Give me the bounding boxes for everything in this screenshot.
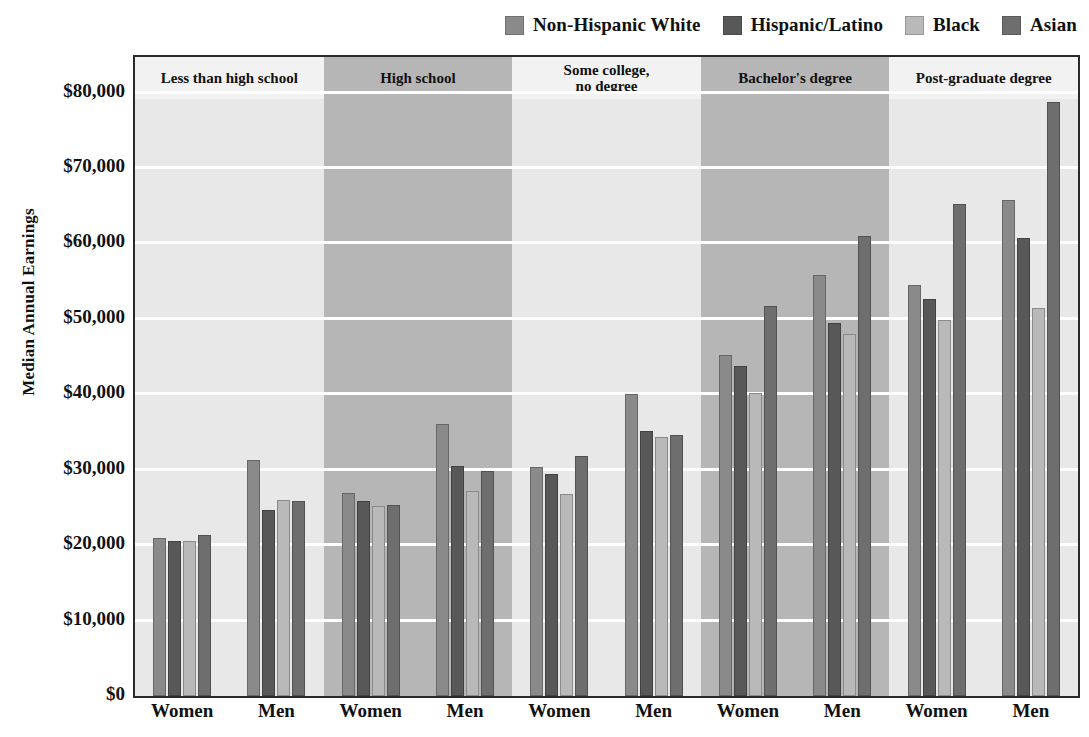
bar xyxy=(923,299,936,696)
x-tick-label: Women xyxy=(151,700,213,722)
legend-item-label: Hispanic/Latino xyxy=(751,14,883,36)
gridline-30000 xyxy=(135,468,1078,471)
bar xyxy=(1047,102,1060,696)
bar xyxy=(813,275,826,696)
panel-header-line: Some college, xyxy=(564,62,650,78)
bar xyxy=(1002,200,1015,696)
bar xyxy=(277,500,290,696)
legend-swatch-icon xyxy=(905,16,924,35)
x-tick-label: Women xyxy=(340,700,402,722)
bar xyxy=(545,474,558,696)
bar xyxy=(530,467,543,696)
bar xyxy=(357,501,370,696)
bar xyxy=(560,494,573,696)
x-tick-label: Men xyxy=(824,700,861,722)
plot-area: Less than high schoolHigh schoolSome col… xyxy=(133,55,1080,698)
bar xyxy=(719,355,732,696)
x-tick-label: Women xyxy=(717,700,779,722)
x-tick-label: Men xyxy=(1012,700,1049,722)
legend-swatch-icon xyxy=(505,16,524,35)
y-axis-tick-labels: $0$10,000$20,000$30,000$40,000$50,000$60… xyxy=(0,55,133,698)
bar xyxy=(1032,308,1045,696)
bar xyxy=(749,393,762,696)
bar xyxy=(436,424,449,696)
bar xyxy=(198,535,211,696)
bar xyxy=(292,501,305,696)
panel-header-line: Less than high school xyxy=(161,70,298,86)
x-tick-label: Women xyxy=(528,700,590,722)
bar xyxy=(734,366,747,696)
panel-header-line: Post-graduate degree xyxy=(916,70,1052,86)
panel-header-line: High school xyxy=(380,70,455,86)
x-tick-label: Men xyxy=(635,700,672,722)
legend-item-label: Black xyxy=(933,14,980,36)
y-tick-label: $0 xyxy=(15,683,133,705)
y-tick-label: $20,000 xyxy=(15,532,133,554)
gridline-50000 xyxy=(135,317,1078,320)
x-tick-label: Men xyxy=(258,700,295,722)
gridline-80000 xyxy=(135,91,1078,94)
y-tick-label: $80,000 xyxy=(15,80,133,102)
bar xyxy=(843,334,856,696)
bar xyxy=(908,285,921,696)
bar xyxy=(342,493,355,696)
legend-item-label: Asian xyxy=(1030,14,1077,36)
bar xyxy=(575,456,588,696)
x-tick-label: Women xyxy=(905,700,967,722)
bar xyxy=(625,394,638,696)
bar xyxy=(655,437,668,696)
y-tick-label: $40,000 xyxy=(15,381,133,403)
bar xyxy=(168,541,181,696)
gridline-40000 xyxy=(135,392,1078,395)
gridline-70000 xyxy=(135,166,1078,169)
bar xyxy=(153,538,166,696)
panel-header-line: Bachelor's degree xyxy=(738,70,851,86)
x-tick-label: Men xyxy=(447,700,484,722)
bar xyxy=(466,491,479,696)
legend-item-1[interactable]: Hispanic/Latino xyxy=(723,14,883,36)
gridline-10000 xyxy=(135,619,1078,622)
legend-item-label: Non-Hispanic White xyxy=(533,14,701,36)
bar xyxy=(828,323,841,696)
legend-swatch-icon xyxy=(723,16,742,35)
bar xyxy=(858,236,871,696)
bar xyxy=(183,541,196,696)
y-tick-label: $30,000 xyxy=(15,457,133,479)
x-axis-tick-labels: WomenMenWomenMenWomenMenWomenMenWomenMen xyxy=(133,700,1080,734)
bar xyxy=(670,435,683,696)
legend-item-0[interactable]: Non-Hispanic White xyxy=(505,14,701,36)
bar xyxy=(764,306,777,696)
chart-legend: Non-Hispanic WhiteHispanic/LatinoBlackAs… xyxy=(0,12,1089,38)
chart-root: Non-Hispanic WhiteHispanic/LatinoBlackAs… xyxy=(0,0,1089,737)
y-tick-label: $10,000 xyxy=(15,608,133,630)
bar xyxy=(481,471,494,696)
y-tick-label: $70,000 xyxy=(15,155,133,177)
bar xyxy=(387,505,400,696)
bar xyxy=(1017,238,1030,696)
bar xyxy=(938,320,951,696)
bar xyxy=(372,506,385,696)
gridline-60000 xyxy=(135,241,1078,244)
y-tick-label: $60,000 xyxy=(15,230,133,252)
bar xyxy=(640,431,653,696)
legend-item-2[interactable]: Black xyxy=(905,14,980,36)
bar xyxy=(247,460,260,696)
legend-swatch-icon xyxy=(1002,16,1021,35)
bar xyxy=(451,466,464,696)
bar xyxy=(262,510,275,696)
legend-item-3[interactable]: Asian xyxy=(1002,14,1077,36)
gridline-20000 xyxy=(135,543,1078,546)
y-tick-label: $50,000 xyxy=(15,306,133,328)
bar xyxy=(953,204,966,696)
